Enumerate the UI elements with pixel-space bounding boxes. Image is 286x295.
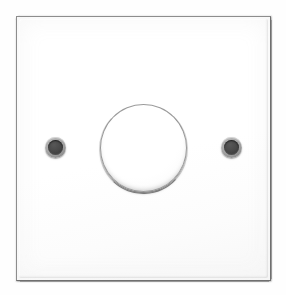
faceplate-label: Dimmer switch faceplate <box>16 16 17 17</box>
screw-head-icon <box>48 140 63 155</box>
product-image-stage: Dimmer switch faceplate Rotary dimmer kn… <box>0 0 286 295</box>
screw-head-icon <box>224 140 239 155</box>
fixing-screw-left: Left fixing screw <box>45 137 66 158</box>
dimmer-knob[interactable]: Rotary dimmer knob <box>100 104 187 192</box>
fixing-screw-right: Right fixing screw <box>221 137 242 158</box>
